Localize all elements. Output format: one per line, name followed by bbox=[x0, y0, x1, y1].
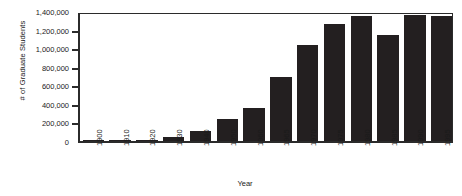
y-axis-tick-label: 0 bbox=[65, 138, 69, 148]
y-axis-tick-label: 1,200,000 bbox=[36, 27, 69, 37]
x-axis-tick-label: 1910 bbox=[122, 129, 131, 146]
y-axis-ticks: 1,400,0001,200,0001,000,000800,000600,00… bbox=[0, 0, 78, 196]
bar-chart: # of Graduate Students 1,400,0001,200,00… bbox=[0, 0, 462, 196]
y-axis-tick: 800,000 bbox=[0, 64, 78, 74]
x-axis-tick-label: 1960 bbox=[256, 129, 265, 146]
y-axis-tick-label: 800,000 bbox=[42, 64, 69, 74]
x-axis-tick-label: 1975 bbox=[336, 129, 345, 146]
y-axis-tick-label: 1,000,000 bbox=[36, 45, 69, 55]
x-axis-tick-label: 1985 bbox=[390, 129, 399, 146]
y-axis-tick: 1,400,000 bbox=[0, 8, 78, 18]
y-axis-tick-label: 200,000 bbox=[42, 119, 69, 129]
bar bbox=[351, 16, 372, 141]
y-axis-tick: 1,200,000 bbox=[0, 27, 78, 37]
x-axis-tick-label: 1995 bbox=[443, 129, 452, 146]
x-axis-tick-label: 1920 bbox=[148, 129, 157, 146]
x-axis-tick-label: 1965 bbox=[282, 129, 291, 146]
y-axis-tick: 200,000 bbox=[0, 119, 78, 129]
y-axis-tick-label: 600,000 bbox=[42, 82, 69, 92]
x-axis-tick-label: 1950 bbox=[229, 129, 238, 146]
y-axis-tick: 400,000 bbox=[0, 101, 78, 111]
bar bbox=[324, 24, 345, 141]
x-axis-tick-label: 1900 bbox=[95, 129, 104, 146]
y-axis-tick: 600,000 bbox=[0, 82, 78, 92]
x-axis-title: Year bbox=[0, 179, 462, 188]
bar bbox=[297, 45, 318, 141]
plot-area bbox=[78, 13, 453, 143]
y-axis-tick: 0 bbox=[0, 138, 78, 148]
bar bbox=[377, 35, 398, 141]
bar bbox=[404, 15, 425, 141]
x-axis-tick-label: 1930 bbox=[175, 129, 184, 146]
x-axis-title-text: Year bbox=[237, 179, 252, 188]
x-axis-tick-label: 1990 bbox=[416, 129, 425, 146]
y-axis-tick-label: 400,000 bbox=[42, 101, 69, 111]
x-axis-tick-label: 1970 bbox=[309, 129, 318, 146]
y-axis-tick: 1,000,000 bbox=[0, 45, 78, 55]
x-axis-tick-label: 1940 bbox=[202, 129, 211, 146]
y-axis-tick-label: 1,400,000 bbox=[36, 8, 69, 18]
x-axis-tick-label: 1980 bbox=[363, 129, 372, 146]
bar bbox=[431, 16, 452, 141]
